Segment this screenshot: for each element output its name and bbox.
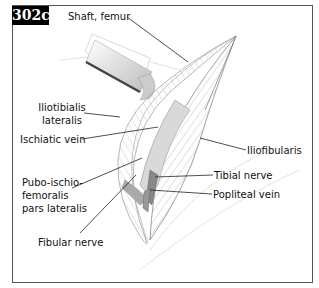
label-iliofibularis: Iliofibularis bbox=[247, 144, 302, 157]
leader-iliofibularis bbox=[200, 138, 246, 150]
leader-iliotibialis bbox=[84, 113, 120, 117]
femur-shaft bbox=[85, 34, 155, 100]
label-fibular-nerve: Fibular nerve bbox=[38, 236, 103, 249]
label-iliotibialis-line2: lateralis bbox=[36, 114, 88, 127]
label-popliteal-vein: Popliteal vein bbox=[213, 188, 280, 201]
label-pubo-line1: Pubo-ischio- bbox=[22, 176, 87, 189]
label-ischiatic-vein: Ischiatic vein bbox=[20, 133, 85, 146]
label-pubo-line3: pars lateralis bbox=[22, 202, 87, 215]
label-shaft-femur: Shaft, femur bbox=[68, 10, 130, 23]
label-tibial-nerve: Tibial nerve bbox=[214, 169, 272, 182]
leader-ischiatic-vein bbox=[82, 127, 158, 139]
label-iliotibialis-line1: Iliotibialis bbox=[36, 101, 88, 114]
label-pubo-line2: femoralis bbox=[22, 189, 87, 202]
label-iliotibialis-lateralis: Iliotibialis lateralis bbox=[36, 101, 88, 127]
label-pubo-ischio-femoralis: Pubo-ischio- femoralis pars lateralis bbox=[22, 176, 87, 215]
